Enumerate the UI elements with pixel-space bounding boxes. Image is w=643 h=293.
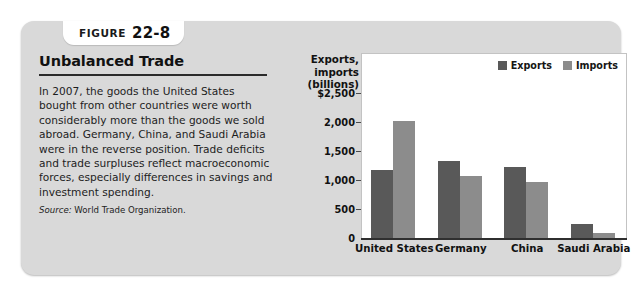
y-axis-title-line-1: Exports, bbox=[297, 53, 359, 66]
bar-imports bbox=[460, 176, 482, 238]
figure-panel: Figure 22-8 Unbalanced Trade In 2007, th… bbox=[21, 21, 621, 275]
title-divider bbox=[39, 74, 267, 76]
figure-body-paragraph: In 2007, the goods the United States bou… bbox=[39, 84, 273, 199]
y-axis-tick-label: 1,500 bbox=[297, 146, 355, 157]
y-axis-tick-label: 2,000 bbox=[297, 117, 355, 128]
bar-group bbox=[371, 121, 415, 238]
x-axis-tick-label: China bbox=[511, 243, 543, 254]
bars-container bbox=[362, 54, 626, 238]
figure-tab-label: Figure bbox=[79, 27, 126, 39]
y-axis-tick-label: 500 bbox=[297, 204, 355, 215]
figure-body-text: In 2007, the goods the United States bou… bbox=[39, 84, 273, 199]
plot-area: ExportsImports bbox=[361, 53, 627, 239]
bar-exports bbox=[504, 167, 526, 238]
bar-group bbox=[438, 161, 482, 238]
x-axis-tick-label: Saudi Arabia bbox=[557, 243, 630, 254]
figure-title: Unbalanced Trade bbox=[39, 53, 284, 69]
bar-exports bbox=[371, 170, 393, 238]
bar-imports bbox=[393, 121, 415, 238]
bar-imports bbox=[526, 182, 548, 238]
x-axis-tick-label: Germany bbox=[435, 243, 487, 254]
y-axis-title-line-2: imports bbox=[297, 66, 359, 79]
y-axis-tick-label: 1,000 bbox=[297, 175, 355, 186]
y-axis-title: Exports, imports (billions) bbox=[297, 53, 359, 91]
figure-source: Source: World Trade Organization. bbox=[39, 205, 284, 215]
source-label: Source: bbox=[39, 205, 72, 215]
bar-group bbox=[504, 167, 548, 238]
x-axis-tick-label: United States bbox=[355, 243, 434, 254]
y-axis-tick-label: $2,500 bbox=[297, 88, 355, 99]
bar-exports bbox=[438, 161, 460, 238]
x-axis-tick-labels: United StatesGermanyChinaSaudi Arabia bbox=[361, 243, 627, 261]
figure-tab-number: 22-8 bbox=[132, 24, 170, 42]
bar-chart: Exports, imports (billions) $2,5002,0001… bbox=[297, 53, 627, 265]
bar-group bbox=[571, 224, 615, 238]
figure-text-column: Unbalanced Trade In 2007, the goods the … bbox=[39, 53, 284, 215]
figure-number-tab: Figure 22-8 bbox=[63, 21, 184, 45]
bar-exports bbox=[571, 224, 593, 238]
source-text: World Trade Organization. bbox=[74, 205, 185, 215]
x-axis-line bbox=[361, 238, 627, 240]
y-axis-tick-label: 0 bbox=[297, 233, 355, 244]
